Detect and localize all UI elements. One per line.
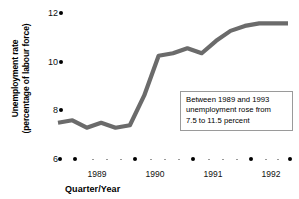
callout-line-3: 7.5 to 11.5 percent	[186, 116, 288, 126]
callout-annotation: Between 1989 and 1993 unemployment rose …	[180, 91, 293, 131]
callout-line-1: Between 1989 and 1993	[186, 95, 288, 105]
callout-line-2: unemployment rose from	[186, 105, 288, 115]
chart-figure: Unemployment rate (percentage of labour …	[0, 0, 299, 199]
